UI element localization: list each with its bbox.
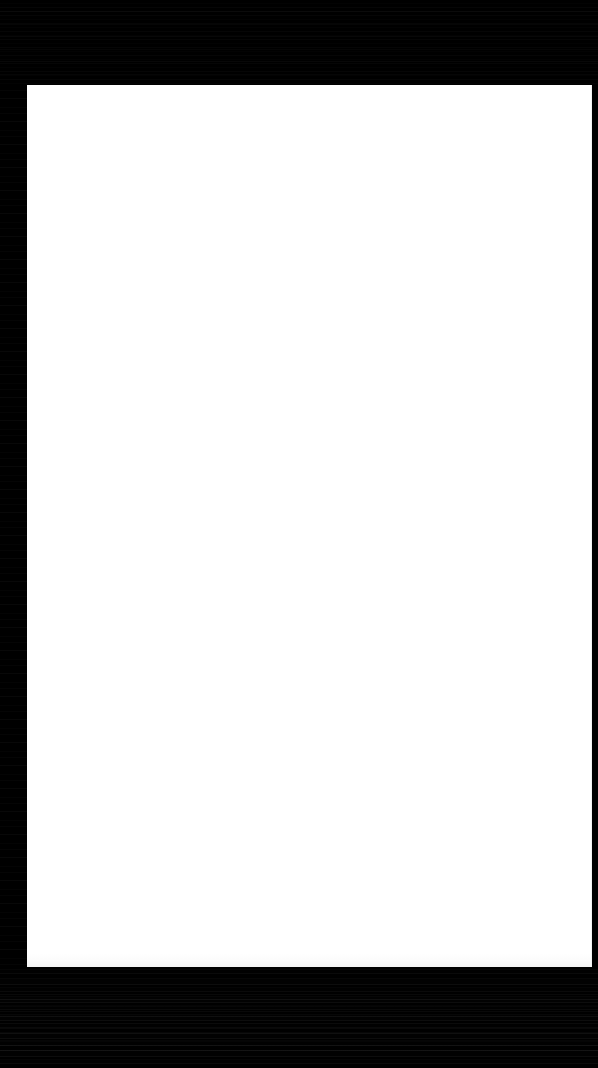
screenshot-root: [0, 0, 598, 1068]
left-chrome-gutter-label: [0, 85, 1, 86]
top-chrome-bar-label: [0, 0, 1, 1]
left-chrome-gutter[interactable]: [0, 85, 27, 967]
right-chrome-edge-label: [592, 85, 593, 86]
top-chrome-bar[interactable]: [0, 0, 598, 85]
page-canvas[interactable]: [27, 85, 591, 967]
bottom-chrome-bar-label: [0, 967, 1, 968]
right-chrome-edge: [592, 85, 598, 967]
document-content-page[interactable]: [27, 85, 592, 967]
bottom-chrome-bar[interactable]: [0, 967, 598, 1068]
